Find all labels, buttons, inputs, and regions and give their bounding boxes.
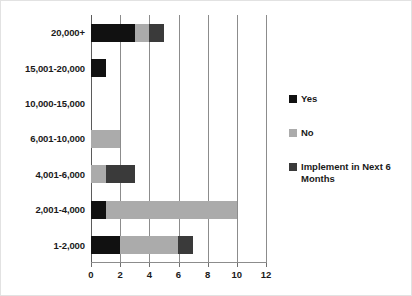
bar-segment bbox=[120, 236, 178, 254]
category-label: 20,000+ bbox=[51, 15, 85, 50]
category-label: 4,001-6,000 bbox=[35, 157, 85, 192]
x-tick-label: 0 bbox=[88, 269, 93, 280]
bar-segment bbox=[91, 24, 135, 42]
x-tick-label: 12 bbox=[261, 269, 272, 280]
x-tick-label: 4 bbox=[147, 269, 152, 280]
x-tick-label: 8 bbox=[205, 269, 210, 280]
bar-segment bbox=[106, 201, 237, 219]
category-label: 10,000-15,000 bbox=[25, 86, 85, 121]
bar-segment bbox=[91, 130, 120, 148]
bar-row bbox=[91, 228, 266, 263]
legend-swatch-icon bbox=[289, 163, 297, 171]
bar-segment bbox=[178, 236, 193, 254]
x-tick-mark bbox=[266, 263, 267, 267]
x-tick-label: 2 bbox=[118, 269, 123, 280]
x-tick-mark bbox=[120, 263, 121, 267]
bar-stack bbox=[91, 95, 266, 113]
bar-segment bbox=[106, 165, 135, 183]
plot-area bbox=[91, 15, 266, 263]
legend-swatch-icon bbox=[289, 129, 297, 137]
chart-container: 20,000+15,001-20,00010,000-15,0006,001-1… bbox=[0, 0, 412, 296]
x-tick-mark bbox=[149, 263, 150, 267]
x-tick-label: 6 bbox=[176, 269, 181, 280]
legend-label: No bbox=[301, 127, 314, 139]
legend-label: Implement in Next 6 Months bbox=[301, 161, 409, 185]
bar-stack bbox=[91, 201, 266, 219]
category-label: 15,001-20,000 bbox=[25, 50, 85, 85]
legend-item[interactable]: No bbox=[289, 127, 409, 139]
bar-row bbox=[91, 86, 266, 121]
bar-segment bbox=[91, 165, 106, 183]
bar-stack bbox=[91, 236, 266, 254]
bar-segment bbox=[91, 201, 106, 219]
legend-swatch-icon bbox=[289, 95, 297, 103]
bar-row bbox=[91, 121, 266, 156]
bar-stack bbox=[91, 165, 266, 183]
gridline-12 bbox=[266, 15, 267, 263]
bar-segment bbox=[91, 59, 106, 77]
bar-stack bbox=[91, 59, 266, 77]
x-tick-mark bbox=[91, 263, 92, 267]
bar-row bbox=[91, 50, 266, 85]
bar-segment bbox=[91, 236, 120, 254]
bar-segment bbox=[135, 24, 150, 42]
y-axis-category-labels: 20,000+15,001-20,00010,000-15,0006,001-1… bbox=[1, 15, 85, 263]
bar-stack bbox=[91, 130, 266, 148]
x-axis: 024681012 bbox=[91, 263, 266, 285]
legend-item[interactable]: Implement in Next 6 Months bbox=[289, 161, 409, 185]
x-tick-mark bbox=[179, 263, 180, 267]
bar-row bbox=[91, 15, 266, 50]
bar-row bbox=[91, 192, 266, 227]
bar-segment bbox=[149, 24, 164, 42]
category-label: 1-2,000 bbox=[53, 228, 85, 263]
category-label: 2,001-4,000 bbox=[35, 192, 85, 227]
legend-label: Yes bbox=[301, 93, 317, 105]
category-label: 6,001-10,000 bbox=[30, 121, 85, 156]
x-tick-label: 10 bbox=[232, 269, 243, 280]
bar-stack bbox=[91, 24, 266, 42]
bar-row bbox=[91, 157, 266, 192]
x-tick-mark bbox=[237, 263, 238, 267]
chart-legend: YesNoImplement in Next 6 Months bbox=[289, 93, 409, 207]
legend-item[interactable]: Yes bbox=[289, 93, 409, 105]
x-tick-mark bbox=[208, 263, 209, 267]
